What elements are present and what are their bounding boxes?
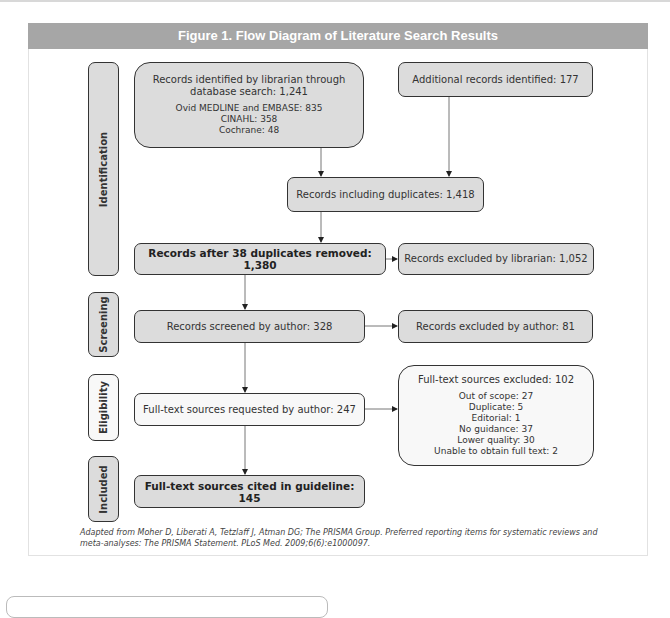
stage-eligibility: Eligibility [88, 374, 119, 441]
fulltext-excluded-detail: No guidance: 37 [459, 424, 533, 435]
stage-identification: Identification [88, 62, 119, 276]
fulltext-excluded-detail: Duplicate: 5 [469, 402, 524, 413]
librarian-search-box: Records identified by librarian through … [134, 62, 364, 148]
including-duplicates-box: Records including duplicates: 1,418 [287, 177, 484, 212]
fulltext-excluded-detail: Editorial: 1 [472, 413, 521, 424]
librarian-search-title-1: Records identified by librarian through [153, 74, 346, 86]
including-duplicates-text: Records including duplicates: 1,418 [296, 189, 474, 201]
after-duplicates-box: Records after 38 duplicates removed: 1,3… [134, 243, 386, 275]
fulltext-requested-text: Full-text sources requested by author: 2… [143, 404, 356, 416]
stage-eligibility-label: Eligibility [98, 381, 109, 434]
additional-records-text: Additional records identified: 177 [412, 74, 578, 86]
stage-screening: Screening [88, 292, 119, 357]
caption-line-1: Adapted from Moher D, Liberati A, Tetzla… [80, 527, 620, 538]
fulltext-excluded-detail: Unable to obtain full text: 2 [434, 446, 558, 457]
fulltext-excluded-detail: Lower quality: 30 [457, 435, 534, 446]
stage-screening-label: Screening [98, 296, 109, 352]
fulltext-excluded-box: Full-text sources excluded: 102 Out of s… [398, 365, 594, 466]
cited-guideline-box: Full-text sources cited in guideline: 14… [134, 475, 365, 508]
librarian-search-detail: CINAHL: 358 [221, 114, 278, 125]
excluded-author-text: Records excluded by author: 81 [416, 321, 575, 333]
librarian-search-detail: Cochrane: 48 [219, 125, 279, 136]
screened-author-text: Records screened by author: 328 [167, 321, 333, 333]
fulltext-requested-box: Full-text sources requested by author: 2… [134, 393, 365, 426]
after-duplicates-text: Records after 38 duplicates removed: 1,3… [135, 247, 385, 271]
excluded-librarian-box: Records excluded by librarian: 1,052 [398, 243, 594, 275]
screened-author-box: Records screened by author: 328 [134, 310, 365, 343]
librarian-search-detail: Ovid MEDLINE and EMBASE: 835 [176, 103, 323, 114]
excluded-librarian-text: Records excluded by librarian: 1,052 [404, 253, 587, 265]
librarian-search-title-2: database search: 1,241 [190, 86, 308, 98]
partial-bottom-panel [6, 596, 328, 618]
stage-included: Included [88, 456, 119, 522]
stage-identification-label: Identification [98, 131, 109, 206]
excluded-author-box: Records excluded by author: 81 [398, 310, 593, 343]
additional-records-box: Additional records identified: 177 [398, 62, 593, 97]
fulltext-excluded-detail: Out of scope: 27 [459, 391, 533, 402]
cited-guideline-text: Full-text sources cited in guideline: 14… [135, 480, 364, 504]
figure-caption: Adapted from Moher D, Liberati A, Tetzla… [80, 527, 620, 549]
caption-line-2: meta-analyses: The PRISMA Statement. PLo… [80, 538, 620, 549]
stage-included-label: Included [98, 465, 109, 513]
fulltext-excluded-title: Full-text sources excluded: 102 [418, 374, 574, 386]
